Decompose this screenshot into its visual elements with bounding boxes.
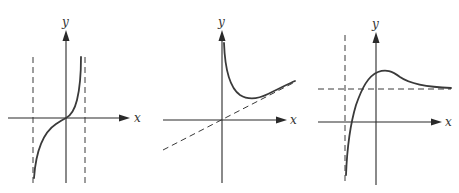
panel-1-x-arrow-icon (119, 115, 130, 122)
panel-3-x-arrow-icon (431, 119, 442, 126)
panel-2: y x (163, 15, 297, 183)
panel-1-y-label: y (61, 15, 69, 29)
panel-2-oblique-asymptote (163, 82, 295, 150)
panel-1-y-arrow-icon (63, 30, 70, 41)
panel-1-x-label: x (134, 111, 141, 125)
panel-2-y-label: y (217, 15, 225, 29)
panel-2-x-label: x (290, 113, 297, 127)
panel-1: y x (8, 15, 141, 183)
panel-3-x-label: x (445, 115, 452, 129)
panel-3: y x (318, 17, 452, 185)
panel-3-y-arrow-icon (373, 32, 380, 43)
panel-3-y-label: y (371, 17, 379, 31)
panel-2-y-arrow-icon (219, 30, 226, 41)
panel-2-x-arrow-icon (276, 117, 287, 124)
panel-2-curve (224, 43, 295, 98)
figure-canvas: y x y x y x (0, 0, 459, 193)
